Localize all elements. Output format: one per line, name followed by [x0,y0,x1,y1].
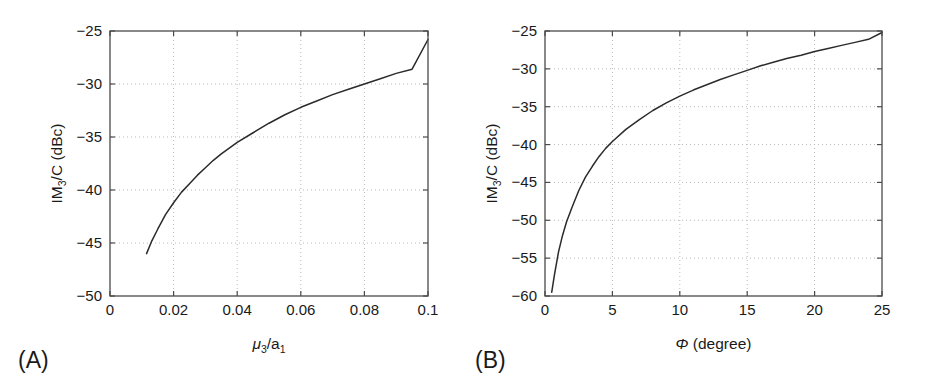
y-tick-label: −30 [77,75,102,92]
axis-ticks: 0510152025−25−30−35−40−45−50−55−60 [512,22,891,318]
plot-a: 00.020.040.060.080.1−25−30−35−40−45−50IM… [0,0,465,382]
x-tick-label: 0 [541,301,549,318]
x-axis-title: Φ (degree) [676,335,752,352]
axis-ticks: 00.020.040.060.080.1−25−30−35−40−45−50 [77,22,439,318]
x-tick-label: 5 [608,301,616,318]
axis-box [110,31,428,296]
data-curve [147,39,428,253]
y-tick-label: −40 [512,136,537,153]
x-tick-label: 0.04 [223,301,252,318]
axis-box [545,31,882,296]
y-tick-label: −25 [77,22,102,39]
y-tick-label: −50 [77,287,102,304]
x-tick-label: 10 [671,301,688,318]
grid-lines [111,32,427,295]
x-tick-label: 0.02 [159,301,188,318]
panel-a-tag: (A) [18,347,49,374]
panel-b: 0510152025−25−30−35−40−45−50−55−60IM3/C … [465,0,930,382]
y-tick-label: −30 [512,60,537,77]
panel-a: 00.020.040.060.080.1−25−30−35−40−45−50IM… [0,0,465,382]
y-tick-label: −35 [77,128,102,145]
y-tick-label: −25 [512,22,537,39]
panel-b-tag: (B) [475,347,506,374]
x-tick-label: 0.1 [418,301,439,318]
y-axis-title: IM3/C (dBc) [483,124,503,204]
figure-container: 00.020.040.060.080.1−25−30−35−40−45−50IM… [0,0,930,382]
y-tick-label: −45 [77,234,102,251]
y-axis-title: IM3/C (dBc) [48,124,68,204]
x-tick-label: 25 [874,301,891,318]
x-tick-label: 15 [739,301,756,318]
y-tick-label: −50 [512,211,537,228]
x-axis-title: μ3/a1 [251,335,285,355]
plot-b: 0510152025−25−30−35−40−45−50−55−60IM3/C … [465,0,930,382]
y-tick-label: −45 [512,173,537,190]
y-tick-label: −35 [512,98,537,115]
data-curve [552,33,882,293]
y-tick-label: −40 [77,181,102,198]
x-tick-label: 0 [106,301,114,318]
x-tick-label: 20 [806,301,823,318]
y-tick-label: −55 [512,249,537,266]
y-tick-label: −60 [512,287,537,304]
x-tick-label: 0.06 [286,301,315,318]
x-tick-label: 0.08 [350,301,379,318]
grid-lines [546,32,881,295]
